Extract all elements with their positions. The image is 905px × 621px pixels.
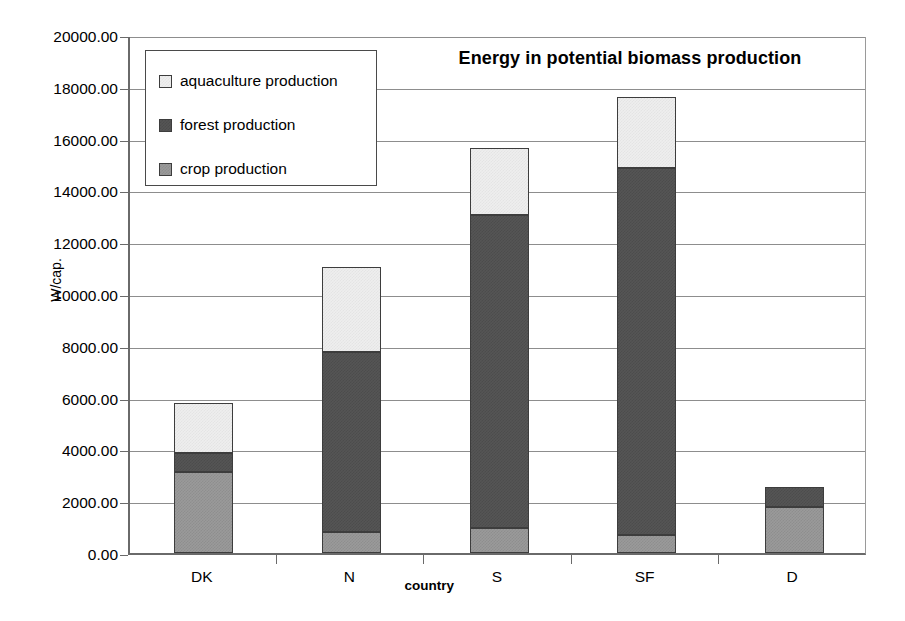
bar-segment-forest[interactable] — [765, 487, 824, 507]
y-axis-tick-label: 6000.00 — [0, 391, 118, 409]
x-axis-label-sf: SF — [573, 568, 717, 586]
y-axis-tick-mark — [120, 89, 128, 90]
y-axis-tick-label: 0.00 — [0, 546, 118, 564]
y-axis-tick-mark — [120, 451, 128, 452]
y-axis-tick-label: 2000.00 — [0, 494, 118, 512]
y-axis-tick-label: 18000.00 — [0, 80, 118, 98]
bar-segment-crop[interactable] — [765, 507, 824, 553]
chart-container: 0.002000.004000.006000.008000.0010000.00… — [0, 0, 905, 621]
y-axis-tick-mark — [120, 141, 128, 142]
x-axis-tick-mark — [276, 555, 277, 564]
y-axis-tick-mark — [120, 400, 128, 401]
legend-swatch-icon — [159, 163, 172, 176]
bar-segment-aquaculture[interactable] — [470, 148, 529, 215]
bar-sf[interactable] — [617, 35, 676, 553]
x-axis-tick-mark — [423, 555, 424, 564]
x-axis-title: country — [369, 578, 489, 593]
x-axis-label-d: D — [720, 568, 864, 586]
legend-item-crop[interactable]: crop production — [159, 161, 287, 177]
y-axis-tick-label: 16000.00 — [0, 132, 118, 150]
y-axis-tick-label: 4000.00 — [0, 442, 118, 460]
x-axis-tick-mark — [571, 555, 572, 564]
chart-legend: aquaculture productionforest productionc… — [145, 50, 377, 186]
y-axis-title: W/cap. — [48, 220, 64, 340]
bar-segment-crop[interactable] — [174, 472, 233, 553]
bar-segment-crop[interactable] — [470, 528, 529, 553]
bar-d[interactable] — [765, 35, 824, 553]
chart-title: Energy in potential biomass production — [395, 48, 865, 69]
y-axis-tick-mark — [120, 244, 128, 245]
y-axis-tick-label: 14000.00 — [0, 183, 118, 201]
bar-segment-crop[interactable] — [617, 535, 676, 553]
legend-label: aquaculture production — [180, 73, 338, 89]
bar-segment-crop[interactable] — [322, 532, 381, 553]
x-axis-label-dk: DK — [130, 568, 274, 586]
bar-segment-forest[interactable] — [617, 168, 676, 534]
y-axis-tick-mark — [120, 37, 128, 38]
bar-segment-aquaculture[interactable] — [322, 267, 381, 352]
y-axis: 0.002000.004000.006000.008000.0010000.00… — [0, 0, 128, 621]
y-axis-tick-mark — [120, 296, 128, 297]
bar-segment-aquaculture[interactable] — [174, 403, 233, 453]
y-axis-tick-mark — [120, 192, 128, 193]
bar-segment-forest[interactable] — [470, 215, 529, 528]
y-axis-tick-mark — [120, 348, 128, 349]
y-axis-tick-mark — [120, 503, 128, 504]
legend-label: forest production — [180, 117, 295, 133]
bar-s[interactable] — [470, 35, 529, 553]
bar-segment-aquaculture[interactable] — [617, 97, 676, 168]
y-axis-tick-mark — [120, 555, 128, 556]
legend-label: crop production — [180, 161, 287, 177]
legend-swatch-icon — [159, 75, 172, 88]
bar-segment-forest[interactable] — [174, 453, 233, 472]
bar-segment-forest[interactable] — [322, 352, 381, 532]
legend-swatch-icon — [159, 119, 172, 132]
y-axis-tick-label: 20000.00 — [0, 28, 118, 46]
legend-item-aquaculture[interactable]: aquaculture production — [159, 73, 338, 89]
legend-item-forest[interactable]: forest production — [159, 117, 295, 133]
x-axis-tick-mark — [718, 555, 719, 564]
y-axis-tick-label: 8000.00 — [0, 339, 118, 357]
